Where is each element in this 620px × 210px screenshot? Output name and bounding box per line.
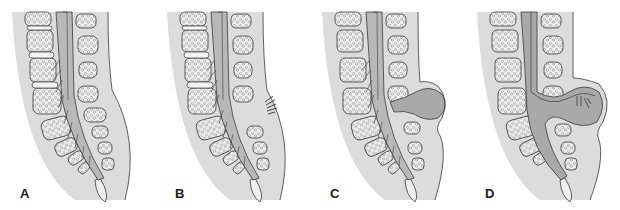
panel-label: B — [175, 186, 184, 201]
spine-illustration — [310, 0, 465, 210]
panel-label: A — [20, 186, 29, 201]
spine-illustration — [155, 0, 310, 210]
panel-d-myelomeningocele: D — [465, 0, 620, 210]
panel-label: C — [330, 186, 339, 201]
panel-a-normal-spine: A — [0, 0, 155, 210]
spine-illustration — [0, 0, 155, 210]
panel-c-meningocele: C — [310, 0, 465, 210]
spine-illustration — [465, 0, 620, 210]
panel-b-spina-bifida-occulta: B — [155, 0, 310, 210]
panel-label: D — [485, 186, 494, 201]
